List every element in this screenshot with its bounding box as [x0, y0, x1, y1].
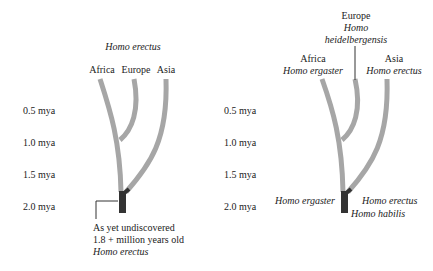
left-tree-branches [100, 79, 166, 192]
right-root-left-label: Homo ergaster [275, 195, 335, 207]
right-axis-1-0: 1.0 mya [224, 137, 256, 149]
right-africa-branch [322, 79, 343, 192]
right-tree-branches [322, 79, 387, 192]
right-axis-0-5: 0.5 mya [224, 105, 256, 117]
left-europe-branch [120, 79, 136, 140]
right-tip-europe-region: Europe [342, 10, 371, 22]
right-root-right-label: Homo erectus [362, 195, 417, 207]
right-tip-europe-species-1: Homo [344, 22, 368, 34]
left-tip-africa: Africa [89, 64, 115, 76]
left-tip-asia: Asia [157, 64, 175, 76]
left-axis-0-5: 0.5 mya [23, 105, 55, 117]
left-tip-europe: Europe [122, 64, 151, 76]
left-axis-2-0: 2.0 mya [23, 201, 55, 213]
right-tip-africa-species: Homo ergaster [283, 65, 343, 77]
left-root [96, 189, 129, 219]
right-europe-branch [342, 79, 358, 140]
right-tip-africa-region: Africa [300, 53, 326, 65]
right-asia-branch [348, 79, 387, 192]
left-tree-title: Homo erectus [105, 41, 160, 53]
right-tip-asia-region: Asia [385, 53, 403, 65]
left-axis-1-5: 1.5 mya [23, 169, 55, 181]
right-tip-asia-species: Homo erectus [366, 65, 421, 77]
left-axis-1-0: 1.0 mya [23, 137, 55, 149]
right-axis-2-0: 2.0 mya [224, 201, 256, 213]
right-root-below-label: Homo habilis [351, 208, 405, 220]
left-asia-branch [126, 79, 166, 192]
left-root-note-line2: 1.8 + million years old [93, 234, 184, 246]
right-tip-europe-species-2: heidelbergensis [325, 34, 387, 46]
right-root [341, 189, 351, 213]
left-root-note-line1: As yet undiscovered [93, 222, 175, 234]
left-root-note-line3: Homo erectus [93, 246, 148, 258]
left-root-pointer [96, 201, 118, 219]
right-axis-1-5: 1.5 mya [224, 169, 256, 181]
left-africa-branch [100, 79, 121, 192]
